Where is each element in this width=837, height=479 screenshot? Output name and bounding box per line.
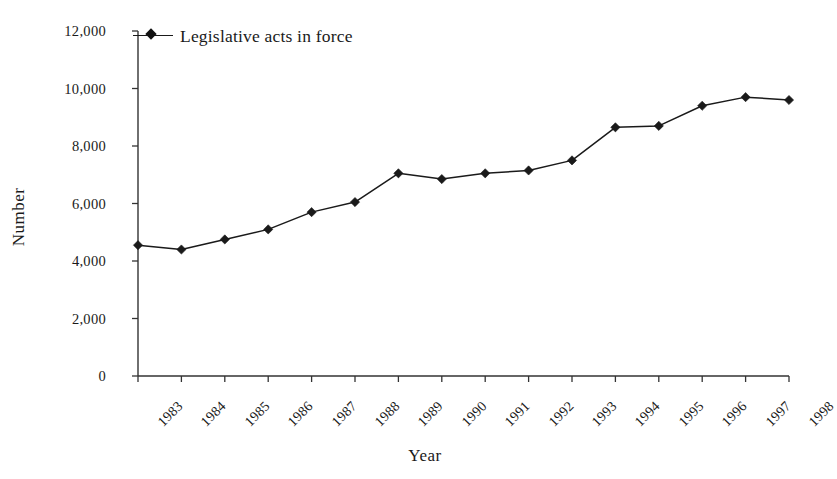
y-tick-label: 6,000 [72, 195, 106, 212]
data-point-marker [264, 225, 273, 234]
y-tick-label: 4,000 [72, 253, 106, 270]
data-point-marker [307, 208, 316, 217]
data-point-marker [350, 197, 359, 206]
chart-legend: Legislative acts in force [133, 23, 353, 49]
x-tick-label: 1998 [806, 398, 837, 430]
legend-label: Legislative acts in force [180, 26, 353, 47]
y-tick-label: 0 [98, 368, 106, 385]
y-tick-label: 12,000 [64, 23, 106, 40]
data-point-marker [437, 174, 446, 183]
axis-lines [138, 31, 789, 376]
data-point-marker [784, 95, 793, 104]
x-tick-marks [138, 376, 789, 382]
data-point-markers [133, 93, 793, 255]
data-point-marker [394, 169, 403, 178]
data-point-marker [741, 93, 750, 102]
y-axis-tick-labels: 02,0004,0006,0008,00010,00012,000 [14, 0, 106, 479]
data-point-marker [654, 121, 663, 130]
data-point-marker [177, 245, 186, 254]
data-point-marker [481, 169, 490, 178]
y-tick-label: 2,000 [72, 310, 106, 327]
data-point-marker [133, 241, 142, 250]
y-tick-label: 10,000 [64, 80, 106, 97]
data-line-series [138, 97, 789, 249]
legend-marker-icon [133, 30, 173, 42]
y-tick-label: 8,000 [72, 138, 106, 155]
data-point-marker [524, 166, 533, 175]
y-tick-marks [132, 31, 138, 376]
x-axis-title: Year [375, 446, 475, 466]
data-point-marker [698, 101, 707, 110]
data-point-marker [220, 235, 229, 244]
